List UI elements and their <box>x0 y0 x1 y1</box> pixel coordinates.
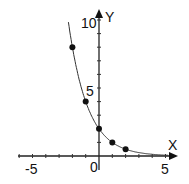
exponential-chart: X Y -5 0 5 5 10 <box>0 0 189 184</box>
data-point <box>69 44 75 50</box>
data-point <box>96 126 102 132</box>
x-tick-label-0: 0 <box>90 160 98 174</box>
data-point <box>109 139 115 145</box>
y-axis-label: Y <box>105 10 114 24</box>
x-axis-arrow-icon <box>169 152 178 160</box>
exponential-curve <box>68 22 168 155</box>
data-point <box>123 146 129 152</box>
y-tick-label-5: 5 <box>86 84 94 98</box>
y-tick-label-10: 10 <box>81 16 97 30</box>
data-point <box>83 99 89 105</box>
x-axis-label: X <box>168 138 177 152</box>
x-tick-label-neg5: -5 <box>25 162 37 176</box>
x-tick-label-5: 5 <box>161 162 169 176</box>
